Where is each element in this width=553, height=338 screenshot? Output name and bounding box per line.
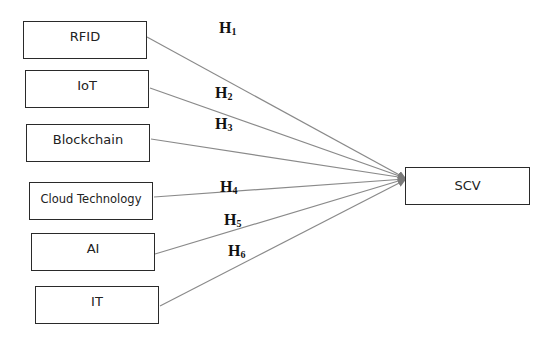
box-ai: AI [31, 233, 155, 271]
hypothesis-label-h5: H5 [224, 211, 241, 229]
label-iot: IoT [77, 78, 97, 93]
box-scv: SCV [405, 167, 530, 205]
arrow-h5 [155, 179, 405, 254]
box-cloud-technology: Cloud Technology [29, 182, 153, 220]
label-blockchain: Blockchain [53, 132, 123, 147]
label-ai: AI [87, 241, 100, 256]
hypothesis-label-h6: H6 [228, 242, 245, 260]
arrow-h2 [150, 88, 405, 178]
arrow-h6 [160, 180, 405, 306]
box-blockchain: Blockchain [26, 124, 150, 162]
label-it: IT [91, 294, 103, 309]
arrow-h1 [147, 37, 405, 178]
label-scv: SCV [454, 178, 480, 193]
hypothesis-label-h3: H3 [215, 115, 232, 133]
box-it: IT [35, 286, 159, 324]
hypothesis-label-h1: H1 [219, 19, 236, 37]
label-rfid: RFID [70, 29, 100, 44]
arrow-h4 [154, 179, 405, 197]
label-cloud-technology: Cloud Technology [41, 192, 142, 206]
hypothesis-label-h4: H4 [220, 178, 237, 196]
box-rfid: RFID [23, 21, 147, 59]
hypothesis-label-h2: H2 [215, 84, 232, 102]
box-iot: IoT [25, 70, 149, 108]
arrow-h3 [151, 139, 405, 178]
